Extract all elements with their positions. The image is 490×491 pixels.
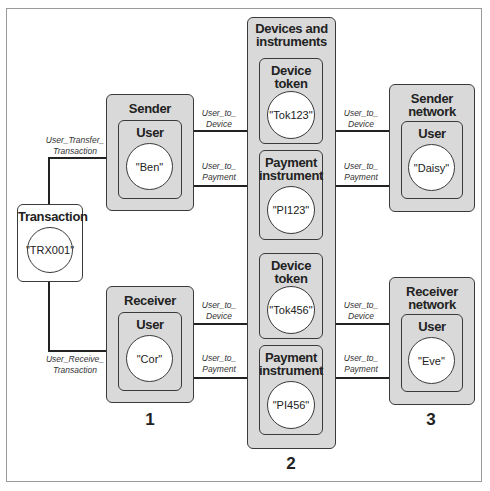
sender-user-value: "Ben" — [126, 143, 173, 190]
devices-group-title: Devices and instruments — [250, 22, 333, 48]
devices-group: Devices and instruments Device token "To… — [247, 17, 336, 449]
receiver-network-group: Receiver network User "Eve" — [389, 277, 475, 405]
section-number-2: 2 — [281, 454, 301, 474]
edge-label-sender-to-device: User_to_ Device — [198, 108, 240, 130]
payment-instrument-2-value: "PI456" — [267, 381, 315, 429]
receiver-group: Receiver User "Cor" — [106, 286, 194, 403]
sender-network-user-title: User — [402, 127, 462, 140]
sender-network-title: Sender network — [398, 92, 466, 118]
sender-title: Sender — [107, 102, 193, 115]
sender-network-user-value: "Daisy" — [408, 144, 455, 191]
payment-instrument-2-title: Payment instrument — [256, 351, 326, 377]
receiver-user-value: "Cor" — [126, 335, 173, 382]
receiver-network-user-node: User "Eve" — [401, 314, 463, 392]
edge-label-pi1-to-sender-network: User_to_ Payment — [340, 161, 382, 183]
receiver-network-user-value: "Eve" — [408, 337, 455, 384]
receiver-network-user-title: User — [402, 320, 462, 333]
receiver-user-node: User "Cor" — [118, 312, 182, 391]
edge-label-pi2-to-receiver-network: User_to_ Payment — [340, 353, 382, 375]
payment-instrument-2-node: Payment instrument "PI456" — [259, 345, 323, 435]
payment-instrument-1-node: Payment instrument "PI123" — [259, 150, 323, 240]
transaction-title: Transaction — [18, 210, 82, 223]
edge-label-user-receive: User_Receive_ Transaction — [44, 354, 106, 376]
device-token-1-title: Device token — [270, 64, 312, 90]
receiver-user-title: User — [119, 318, 181, 331]
sender-network-group: Sender network User "Daisy" — [389, 84, 475, 212]
sender-user-title: User — [119, 126, 181, 139]
edge-label-user-transfer: User_Transfer_ Transaction — [44, 135, 106, 157]
receiver-title: Receiver — [107, 294, 193, 307]
sender-user-node: User "Ben" — [118, 120, 182, 199]
edge-label-receiver-to-payment: User_to_ Payment — [198, 353, 240, 375]
sender-network-user-node: User "Daisy" — [401, 121, 463, 199]
device-token-1-node: Device token "Tok123" — [259, 58, 323, 144]
device-token-1-value: "Tok123" — [267, 91, 315, 139]
transaction-value: "TRX001" — [27, 227, 73, 273]
device-token-2-node: Device token "Tok456" — [259, 253, 323, 339]
payment-instrument-1-title: Payment instrument — [256, 156, 326, 182]
payment-instrument-1-value: "PI123" — [267, 186, 315, 234]
sender-group: Sender User "Ben" — [106, 94, 194, 211]
section-number-3: 3 — [421, 410, 441, 430]
receiver-network-title: Receiver network — [398, 285, 466, 311]
device-token-2-title: Device token — [270, 259, 312, 285]
device-token-2-value: "Tok456" — [267, 286, 315, 334]
edge-label-token1-to-sender-network: User_to_ Device — [340, 108, 382, 130]
section-number-1: 1 — [140, 410, 160, 430]
transaction-node: Transaction "TRX001" — [17, 204, 83, 282]
edge-label-receiver-to-device: User_to_ Device — [198, 300, 240, 322]
edge-label-token2-to-receiver-network: User_to_ Device — [340, 300, 382, 322]
edge-label-sender-to-payment: User_to_ Payment — [198, 161, 240, 183]
